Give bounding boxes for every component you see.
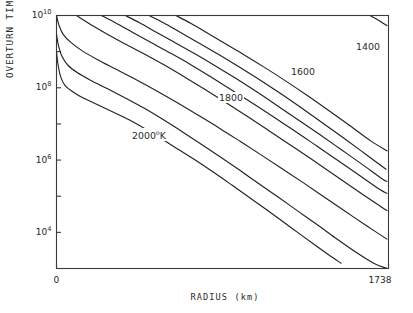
x-tick-label: 0 bbox=[54, 275, 60, 285]
contour-plot-canvas bbox=[0, 0, 413, 313]
plot-frame bbox=[57, 16, 389, 269]
contour-label-1600: 1600 bbox=[290, 66, 316, 77]
contour-line-curve5 bbox=[101, 16, 387, 194]
contour-line-curve6 bbox=[125, 16, 387, 182]
contour-label-2000: 2000oK bbox=[131, 128, 167, 141]
contour-line-curve3 bbox=[57, 16, 387, 240]
axis-ticks bbox=[57, 16, 389, 269]
contour-line-curve7 bbox=[149, 16, 386, 170]
contour-curves bbox=[57, 16, 387, 269]
contour-line-2000K bbox=[57, 52, 342, 264]
y-axis-title: OVERTURN TIME (yr) bbox=[4, 0, 18, 78]
contour-line-curve4 bbox=[77, 16, 387, 211]
x-axis-title: RADIUS (km) bbox=[150, 292, 300, 302]
y-tick-label: 104 bbox=[36, 225, 52, 237]
chart-figure: OVERTURN TIME (yr) RADIUS (km) 101010810… bbox=[0, 0, 413, 313]
contour-label-1800: 1800 bbox=[218, 92, 244, 103]
y-tick-label: 108 bbox=[36, 80, 52, 92]
y-tick-label: 1010 bbox=[32, 8, 52, 20]
contour-line-curve8 bbox=[176, 16, 387, 151]
x-tick-label: 1738 bbox=[369, 275, 392, 285]
y-tick-label: 106 bbox=[36, 153, 52, 165]
contour-line-curve9 bbox=[370, 16, 387, 26]
contour-label-1400: 1400 bbox=[355, 41, 381, 52]
